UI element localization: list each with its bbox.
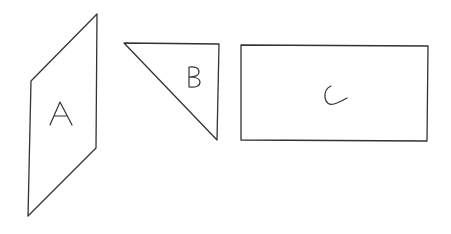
- label-b: [189, 67, 200, 87]
- shape-c-rectangle: [241, 45, 428, 141]
- shapes-diagram: [0, 0, 451, 234]
- label-c: [325, 86, 347, 104]
- label-a: [50, 102, 72, 125]
- shape-a-parallelogram: [28, 14, 97, 216]
- shape-b-triangle: [124, 43, 219, 140]
